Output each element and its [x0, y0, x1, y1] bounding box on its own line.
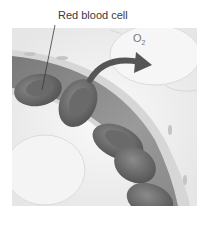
diagram: Red blood cell O2 [0, 0, 210, 231]
capillary-illustration [0, 0, 210, 231]
oxygen-label: O2 [133, 32, 145, 46]
oxygen-symbol: O [133, 32, 142, 44]
red-blood-cell-label: Red blood cell [58, 9, 128, 21]
oxygen-subscript: 2 [142, 39, 146, 46]
